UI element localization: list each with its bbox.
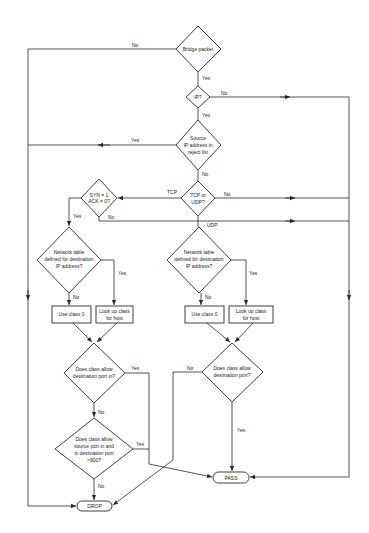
node-label: IP address? [186, 263, 213, 269]
node-label: is destination port [74, 450, 114, 456]
node-label: Bridge packet [183, 46, 214, 52]
node-label: Network table [54, 249, 85, 255]
edge-labels: No Yes No Yes Yes No TCP No UDP Yes No Y… [73, 42, 258, 489]
node-label: Source [190, 135, 206, 141]
node-label: PASS [225, 475, 239, 481]
edge-label: No [132, 42, 139, 48]
node-use-class-0-udp: Use class 0 [185, 306, 224, 323]
edge-label: Yes [73, 213, 82, 219]
edge-label: No [98, 483, 105, 489]
node-label: IP address? [56, 263, 83, 269]
node-label: reject list [188, 149, 208, 155]
edge-dport-in-yes [125, 373, 212, 477]
edge-label: Yes [249, 270, 258, 276]
node-label: TCP or [190, 192, 206, 198]
node-label: Does class allow [213, 365, 251, 371]
node-label: Look up class [99, 308, 130, 314]
edge-class0-udp [207, 323, 230, 342]
node-pass: PASS [213, 472, 249, 483]
edge-label: No [187, 365, 194, 371]
edge-label: Yes [131, 137, 140, 143]
edge-lookup-udp [235, 323, 253, 342]
node-label: Does class allow [75, 436, 113, 442]
node-label: Does class allow [75, 366, 113, 372]
node-label: source port in and [74, 443, 114, 449]
node-network-table-tcp: Network table defined for destination IP… [37, 227, 101, 293]
node-label: ACK = 0? [88, 198, 110, 204]
edge-label: No [98, 409, 105, 415]
node-look-up-class-tcp: Look up class for host [96, 306, 133, 323]
node-look-up-class-udp: Look up class for host [229, 306, 273, 323]
node-syn-ack: SYN = 1 ACK = 0? [81, 179, 117, 217]
edge-lookup-tcp [97, 323, 117, 342]
edge-syn-yes [69, 198, 81, 226]
edge-label: No [221, 90, 228, 96]
edge-label: No [73, 294, 80, 300]
node-dest-port-in: Does class allow destination port in? [64, 343, 125, 403]
node-label: destination port? [214, 372, 251, 378]
node-label: IP address in [183, 142, 212, 148]
node-label: destination port in? [73, 373, 115, 379]
edge-label: UDP [207, 222, 218, 228]
edge-class0-tcp [73, 323, 92, 342]
edge-label: Yes [131, 365, 140, 371]
node-label: for host [106, 315, 123, 321]
node-label: Look up class [236, 308, 267, 314]
edge-label: Yes [237, 427, 246, 433]
node-label: defined for destination [174, 256, 223, 262]
edge-label: Yes [118, 270, 127, 276]
node-use-class-0-tcp: Use class 0 [52, 306, 91, 323]
node-label: Network table [184, 249, 215, 255]
edge-syn-no [99, 217, 349, 221]
node-tcp-or-udp: TCP or UDP? [181, 181, 215, 216]
flowchart-svg: Bridge packet IP? Source IP address in r… [0, 0, 369, 533]
node-reject-list: Source IP address in reject list [176, 120, 221, 170]
edge-dport-no [113, 372, 202, 505]
node-label: Use class 0 [59, 311, 85, 317]
node-label: for host [243, 315, 260, 321]
node-source-port-in: Does class allow source port in and is d… [55, 418, 133, 479]
node-label: Use class 0 [192, 311, 218, 317]
node-label: >900? [87, 457, 101, 463]
edge-label: Yes [202, 75, 211, 81]
node-label: UDP? [191, 199, 205, 205]
node-label: DROP [87, 503, 102, 509]
flowchart-canvas: Bridge packet IP? Source IP address in r… [0, 0, 369, 533]
edge-label: No [224, 191, 231, 197]
edge-label: Yes [136, 441, 145, 447]
edge-label: Yes [202, 112, 211, 118]
edge-net-udp-yes [231, 260, 246, 305]
edge-ip-no [210, 97, 349, 477]
edge-label: No [202, 171, 209, 177]
node-drop: DROP [77, 501, 112, 511]
node-label: IP? [194, 94, 202, 100]
node-bridge-packet: Bridge packet [176, 26, 221, 72]
edge-label: No [108, 214, 115, 220]
edge-label: TCP [167, 189, 178, 195]
node-ip: IP? [186, 86, 210, 108]
edge-net-tcp-yes [101, 260, 114, 305]
node-label: defined for destination [44, 256, 93, 262]
node-dest-port: Does class allow destination port? [202, 343, 263, 402]
edge-label: No [205, 294, 212, 300]
node-network-table-udp: Network table defined for destination IP… [167, 227, 231, 293]
